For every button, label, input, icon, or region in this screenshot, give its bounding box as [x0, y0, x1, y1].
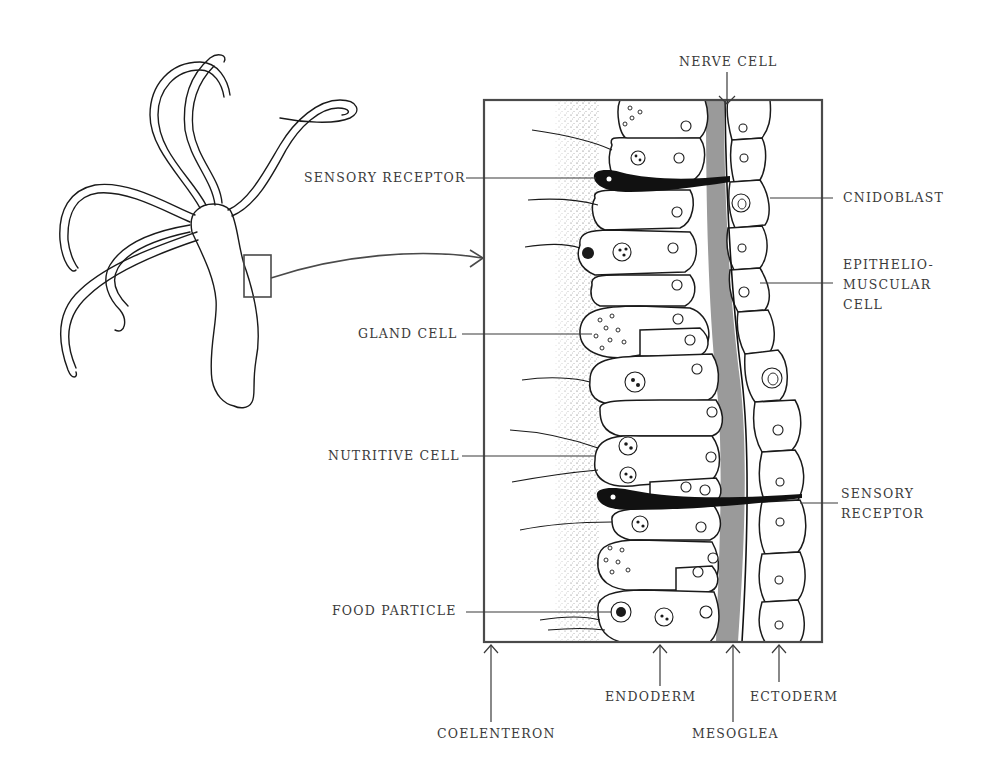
label-ectoderm: ECTODERM: [750, 689, 838, 705]
diagram-artwork: [0, 0, 996, 780]
label-food-particle: FOOD PARTICLE: [332, 603, 457, 619]
hydra-diagram: SENSORY RECEPTOR GLAND CELL NUTRITIVE CE…: [0, 0, 996, 780]
label-nutritive-cell: NUTRITIVE CELL: [328, 448, 460, 464]
label-endoderm: ENDODERM: [605, 689, 696, 705]
label-mesoglea: MESOGLEA: [692, 726, 779, 742]
label-sensory-receptor-left: SENSORY RECEPTOR: [304, 170, 466, 186]
label-cnidoblast: CNIDOBLAST: [843, 190, 944, 206]
hydra-organism: [60, 55, 357, 408]
zoom-arrow: [271, 254, 482, 278]
label-nerve-cell: NERVE CELL: [679, 54, 777, 70]
label-sensory-receptor-right: SENSORY RECEPTOR: [841, 484, 924, 524]
label-gland-cell: GLAND CELL: [358, 326, 458, 342]
label-epitheliomuscular-cell: EPITHELIO- MUSCULAR CELL: [843, 255, 934, 315]
label-coelenteron: COELENTERON: [437, 726, 556, 742]
